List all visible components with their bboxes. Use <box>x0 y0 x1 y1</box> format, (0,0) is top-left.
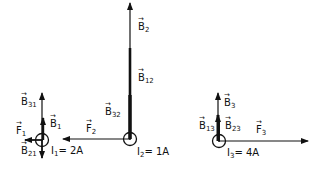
label-current-1: I1= 2A <box>51 146 83 158</box>
label-B13: B13 <box>199 121 215 133</box>
diagram-canvas: B31 B1 F1 B21 I1= 2A F2 B2 B12 B32 I2= 1… <box>0 0 325 175</box>
label-current-2: I2= 1A <box>137 147 169 159</box>
wire-2 <box>63 3 137 146</box>
label-B1: B1 <box>50 119 61 131</box>
label-B12: B12 <box>138 73 154 85</box>
label-B31: B31 <box>21 97 37 109</box>
label-F3: F3 <box>256 125 266 137</box>
label-F2: F2 <box>86 124 96 136</box>
label-B2: B2 <box>138 22 149 34</box>
label-current-3: I3= 4A <box>227 148 259 160</box>
label-B3: B3 <box>224 98 235 110</box>
label-B23: B23 <box>225 121 241 133</box>
label-B21: B21 <box>21 146 37 158</box>
label-B32: B32 <box>105 107 121 119</box>
label-F1: F1 <box>16 126 26 138</box>
